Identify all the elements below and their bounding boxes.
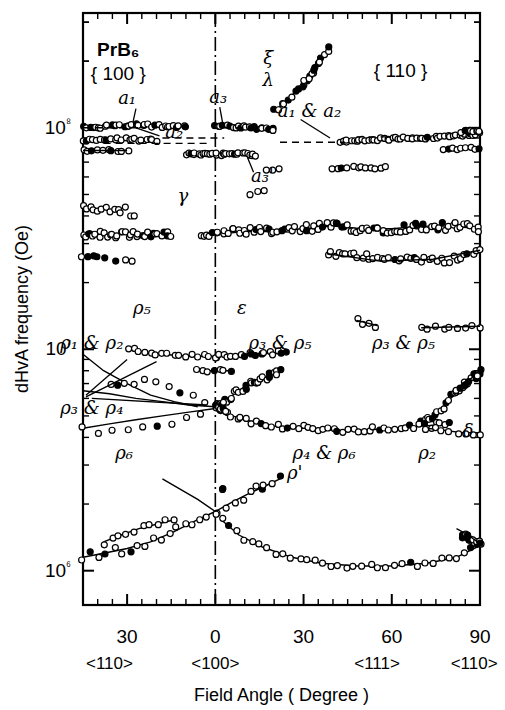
- data-point: [466, 379, 472, 385]
- data-point: [94, 254, 100, 260]
- data-point: [344, 222, 350, 228]
- data-point: [204, 369, 210, 375]
- data-point: [284, 425, 290, 431]
- data-point: [355, 429, 361, 435]
- data-point: [211, 368, 217, 374]
- data-point: [176, 352, 182, 358]
- data-point: [461, 550, 467, 556]
- data-point: [334, 428, 340, 434]
- data-point: [101, 542, 107, 548]
- data-point: [344, 565, 350, 571]
- data-point: [128, 549, 134, 555]
- data-point: [270, 127, 276, 133]
- data-point: [151, 535, 157, 541]
- annotation-label: a₁: [118, 87, 136, 108]
- data-point: [439, 220, 445, 226]
- data-point: [303, 222, 309, 228]
- data-point: [446, 420, 452, 426]
- data-point: [392, 562, 398, 568]
- data-point: [223, 505, 229, 511]
- data-point: [252, 153, 258, 159]
- data-point: [220, 515, 226, 521]
- annotation-label: ε: [237, 297, 247, 318]
- data-point: [102, 551, 108, 557]
- annotation-label: { 100 }: [91, 63, 146, 84]
- branch-curve: [162, 479, 215, 512]
- data-point: [344, 165, 350, 171]
- x-tick-label: 0: [210, 626, 221, 647]
- data-point: [155, 522, 161, 528]
- data-point: [252, 353, 258, 359]
- data-point: [273, 551, 279, 557]
- data-point: [255, 189, 261, 195]
- data-point: [287, 555, 293, 561]
- data-point: [203, 514, 209, 520]
- data-point: [382, 164, 388, 170]
- data-point: [350, 563, 356, 569]
- data-point: [112, 545, 118, 551]
- data-point: [441, 406, 447, 412]
- data-point: [280, 551, 286, 557]
- data-point: [268, 424, 274, 430]
- chart-canvas: 10⁸10⁷10⁶300306090<110><100><111><110>Fi…: [0, 0, 505, 710]
- data-point: [374, 225, 380, 231]
- data-point: [140, 424, 146, 430]
- x-tick-label: 30: [117, 626, 138, 647]
- data-point: [85, 254, 91, 260]
- data-point: [241, 353, 247, 359]
- data-point: [241, 537, 247, 543]
- annotation-label: PrB₆: [97, 39, 139, 60]
- annotation-label: ρ₃ & ρ₅: [371, 332, 435, 353]
- data-point: [169, 421, 175, 427]
- data-point: [154, 423, 160, 429]
- data-point: [220, 399, 226, 405]
- data-point: [142, 543, 148, 549]
- data-point: [326, 44, 332, 50]
- y-tick-label: 10⁸: [45, 116, 71, 138]
- data-point: [78, 254, 84, 260]
- data-point: [452, 220, 458, 226]
- data-point: [168, 234, 174, 240]
- y-tick-label: 10⁶: [45, 559, 71, 581]
- data-point: [194, 367, 200, 373]
- annotation-label: γ: [178, 185, 189, 206]
- x-tick-label: 90: [469, 626, 490, 647]
- data-point: [291, 224, 297, 230]
- data-point: [177, 390, 183, 396]
- data-point: [214, 229, 220, 235]
- data-point: [220, 367, 226, 373]
- data-point: [227, 414, 233, 420]
- annotation-label: ρ₄ & ρ₆: [292, 442, 356, 463]
- data-point: [411, 425, 417, 431]
- data-point: [243, 415, 249, 421]
- data-point: [264, 545, 270, 551]
- annotation-label: ρ₅: [132, 297, 151, 318]
- data-point: [277, 473, 283, 479]
- data-point: [256, 541, 262, 547]
- data-point: [374, 565, 380, 571]
- data-point: [171, 517, 177, 523]
- data-point: [126, 346, 132, 352]
- data-point: [304, 557, 310, 563]
- data-point: [462, 145, 468, 151]
- data-point: [189, 522, 195, 528]
- data-point: [141, 376, 147, 382]
- data-point: [263, 423, 269, 429]
- data-point: [478, 367, 484, 373]
- x-tick-label: 60: [381, 626, 402, 647]
- data-point: [117, 210, 123, 216]
- data-point: [230, 226, 236, 232]
- data-point: [164, 350, 170, 356]
- data-point: [226, 522, 232, 528]
- data-point: [445, 398, 451, 404]
- data-point: [243, 231, 249, 237]
- data-point: [158, 537, 164, 543]
- annotation-label: ξ: [263, 47, 274, 68]
- data-point: [430, 560, 436, 566]
- data-point: [369, 561, 375, 567]
- data-point: [319, 560, 325, 566]
- data-point: [184, 414, 190, 420]
- label-leader: [220, 107, 223, 123]
- label-leader: [133, 109, 136, 123]
- data-point: [328, 563, 334, 569]
